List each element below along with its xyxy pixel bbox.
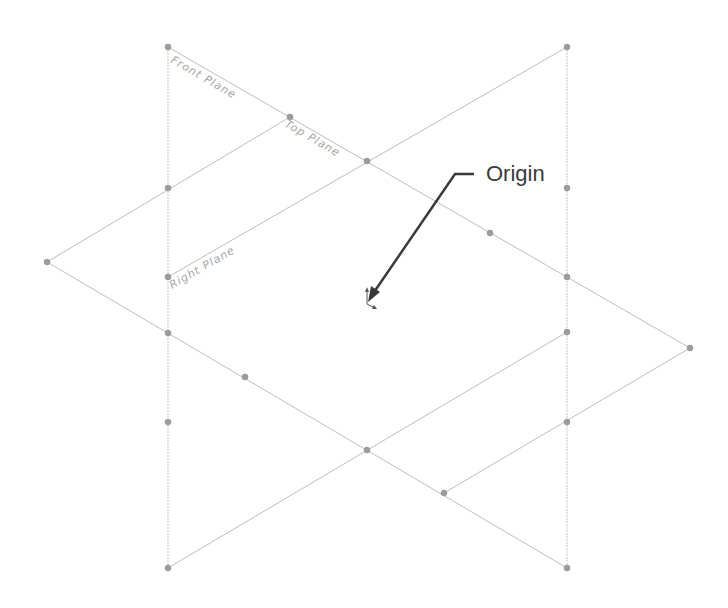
front-plane-label: Front Plane (169, 53, 239, 101)
origin-label: Origin (486, 161, 545, 186)
front-plane-edge (168, 47, 690, 348)
top-plane-left-edge (47, 262, 567, 568)
origin-leader-line (370, 174, 474, 298)
node-group (44, 44, 693, 571)
origin-arrow-icon (368, 286, 380, 302)
diagram-canvas: Front Plane Top Plane Right Plane Origin (0, 0, 728, 608)
right-plane-label: Right Plane (167, 244, 237, 292)
planes-diagram: Front Plane Top Plane Right Plane Origin (0, 0, 728, 608)
top-plane-label: Top Plane (283, 117, 343, 159)
